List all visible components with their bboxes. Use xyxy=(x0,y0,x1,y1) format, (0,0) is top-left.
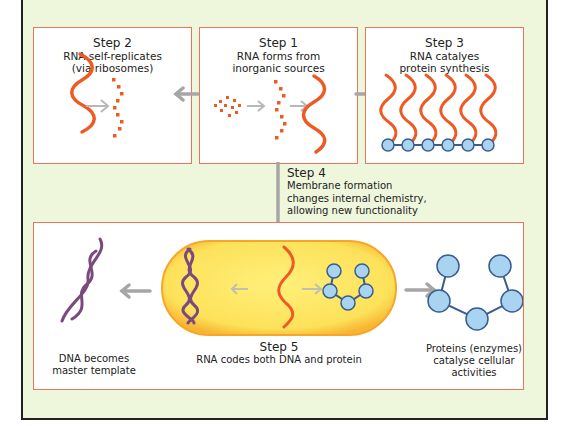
rna-formation-icon xyxy=(200,28,357,163)
step4-line2: changes internal chemistry, xyxy=(287,193,427,206)
rna-protein-synthesis-icon xyxy=(366,28,523,163)
dna-icon xyxy=(62,239,102,321)
step4-label: Step 4 xyxy=(287,166,427,180)
dna-caption-line2: master template xyxy=(34,365,154,377)
step2-box: Step 2 RNA self-replicates (via ribosome… xyxy=(33,27,192,164)
dna-caption: DNA becomes master template xyxy=(34,353,154,377)
protein-caption-line1: Proteins (enzymes) xyxy=(419,343,529,355)
step5-caption: Step 5 RNA codes both DNA and protein xyxy=(164,340,394,366)
step4-text: Step 4 Membrane formation changes intern… xyxy=(287,166,427,218)
protein-caption-line2: catalyse cellular xyxy=(419,355,529,367)
step5-line1: RNA codes both DNA and protein xyxy=(164,354,394,366)
protein-caption-line3: activities xyxy=(419,367,529,379)
protein-caption: Proteins (enzymes) catalyse cellular act… xyxy=(419,343,529,379)
step4-line3: allowing new functionality xyxy=(287,205,427,218)
arrow-left-icon xyxy=(172,86,202,102)
step1-box: Step 1 RNA forms from inorganic sources xyxy=(199,27,358,164)
step4-line1: Membrane formation xyxy=(287,180,427,193)
rna-replication-icon xyxy=(34,28,191,163)
step5-box: DNA becomes master template Step 5 RNA c… xyxy=(33,222,524,390)
step3-box: Step 3 RNA catalyes protein synthesis xyxy=(365,27,524,164)
dna-caption-line1: DNA becomes xyxy=(34,353,154,365)
step5-label: Step 5 xyxy=(164,340,394,354)
